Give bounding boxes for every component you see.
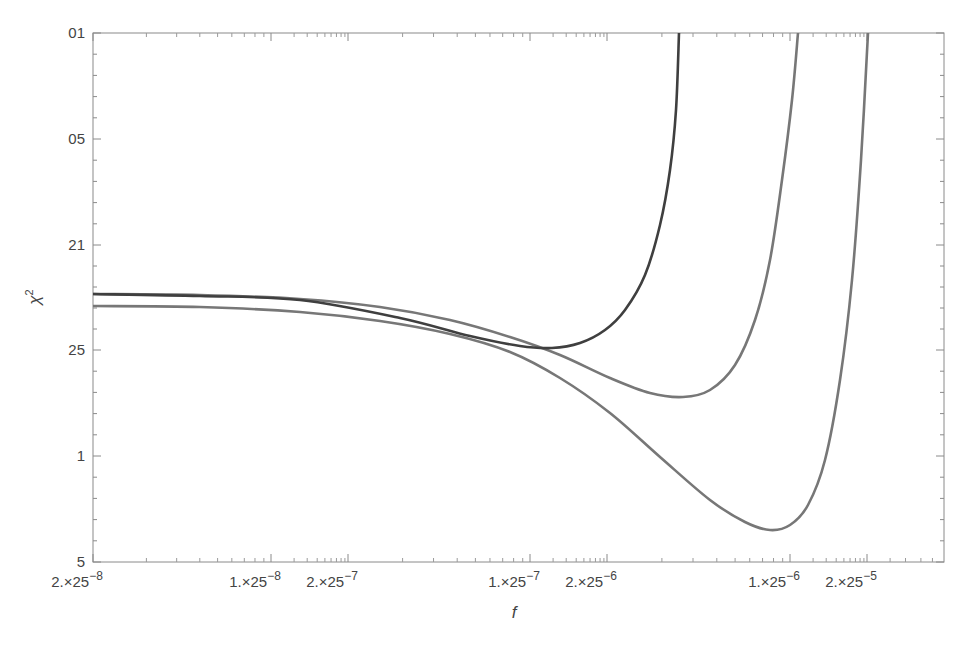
x-tick-label: 2.×25−5 <box>825 569 877 590</box>
series-curve-1 <box>93 33 679 348</box>
x-tick-label: 2.×25−6 <box>565 569 617 590</box>
x-tick-exponent: −7 <box>344 569 358 583</box>
x-tick-mantissa: 1.×25 <box>229 573 267 590</box>
x-tick-label: 1.×25−8 <box>229 569 281 590</box>
x-tick-exponent: −8 <box>267 569 281 583</box>
x-tick-mantissa: 2.×25 <box>51 573 89 590</box>
y-axis-label: χ2 <box>23 289 44 306</box>
y-tick-label: 05 <box>68 130 85 147</box>
x-tick-mantissa: 1.×25 <box>488 573 526 590</box>
y-axis-label-text: χ2 <box>23 289 44 306</box>
series-curve-2 <box>93 33 798 397</box>
x-tick-mantissa: 1.×25 <box>748 573 786 590</box>
y-tick-label: 25 <box>68 341 85 358</box>
x-tick-exponent: −6 <box>786 569 800 583</box>
y-tick-label: 21 <box>68 236 85 253</box>
x-tick-mantissa: 2.×25 <box>306 573 344 590</box>
x-axis-ticks: 2.×25−81.×25−82.×25−71.×25−72.×25−61.×25… <box>51 33 932 590</box>
x-tick-mantissa: 2.×25 <box>825 573 863 590</box>
x-tick-exponent: −7 <box>526 569 540 583</box>
x-axis-label: f <box>512 603 519 622</box>
chart: 0105212515 2.×25−81.×25−82.×25−71.×25−72… <box>0 0 970 649</box>
series-curve-3 <box>93 33 868 530</box>
x-tick-label: 1.×25−7 <box>488 569 540 590</box>
x-tick-mantissa: 2.×25 <box>565 573 603 590</box>
x-tick-label: 2.×25−7 <box>306 569 358 590</box>
x-tick-label: 1.×25−6 <box>748 569 800 590</box>
series-lines <box>93 33 868 530</box>
y-axis-label-superscript: 2 <box>23 289 35 295</box>
x-tick-exponent: −5 <box>863 569 877 583</box>
y-tick-label: 5 <box>77 553 85 570</box>
x-tick-label: 2.×25−8 <box>51 569 103 590</box>
y-tick-label: 1 <box>77 447 85 464</box>
x-tick-exponent: −6 <box>603 569 617 583</box>
x-tick-exponent: −8 <box>89 569 103 583</box>
y-tick-label: 01 <box>68 24 85 41</box>
